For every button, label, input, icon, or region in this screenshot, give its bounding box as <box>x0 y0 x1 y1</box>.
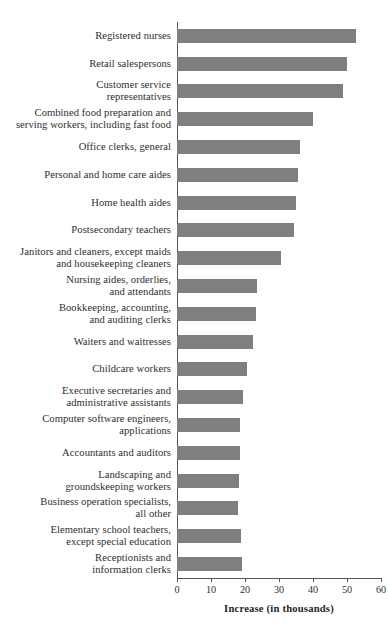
bar <box>177 140 300 154</box>
category-label: Executive secretaries and administrative… <box>0 385 171 409</box>
plot-area: Registered nursesRetail salespersonsCust… <box>0 22 388 578</box>
bar <box>177 223 294 237</box>
bar-row: Retail salespersons <box>0 50 388 78</box>
bar <box>177 335 253 349</box>
bar-row: Combined food preparation and serving wo… <box>0 105 388 133</box>
x-tick <box>177 578 178 582</box>
bar <box>177 29 356 43</box>
x-tick <box>245 578 246 582</box>
bar-row: Bookkeeping, accounting, and auditing cl… <box>0 300 388 328</box>
bar-row: Customer service representatives <box>0 78 388 106</box>
bar <box>177 112 313 126</box>
category-label: Home health aides <box>0 197 171 209</box>
x-tick-label: 40 <box>308 584 318 595</box>
bar <box>177 362 247 376</box>
bar <box>177 279 257 293</box>
x-tick-label: 50 <box>342 584 352 595</box>
category-label: Customer service representatives <box>0 80 171 104</box>
category-label: Landscaping and groundskeeping workers <box>0 469 171 493</box>
bar-row: Childcare workers <box>0 356 388 384</box>
x-axis-title: Increase (in thousands) <box>177 603 381 614</box>
category-label: Bookkeeping, accounting, and auditing cl… <box>0 302 171 326</box>
bar-row: Postsecondary teachers <box>0 217 388 245</box>
bar-row: Registered nurses <box>0 22 388 50</box>
category-label: Elementary school teachers, except speci… <box>0 524 171 548</box>
category-label: Janitors and cleaners, except maids and … <box>0 246 171 270</box>
bar-row: Executive secretaries and administrative… <box>0 383 388 411</box>
bar-row: Receptionists and information clerks <box>0 550 388 578</box>
bar <box>177 474 239 488</box>
x-tick-label: 30 <box>274 584 284 595</box>
x-tick-label: 0 <box>174 584 179 595</box>
bar-row: Home health aides <box>0 189 388 217</box>
bar-row: Janitors and cleaners, except maids and … <box>0 244 388 272</box>
category-label: Childcare workers <box>0 364 171 376</box>
bar <box>177 57 347 71</box>
bar-row: Business operation specialists, all othe… <box>0 495 388 523</box>
bar-row: Personal and home care aides <box>0 161 388 189</box>
bar-row: Computer software engineers, application… <box>0 411 388 439</box>
category-label: Combined food preparation and serving wo… <box>0 107 171 131</box>
category-label: Receptionists and information clerks <box>0 552 171 576</box>
category-label: Personal and home care aides <box>0 169 171 181</box>
category-label: Accountants and auditors <box>0 447 171 459</box>
bar-row: Office clerks, general <box>0 133 388 161</box>
x-tick <box>211 578 212 582</box>
bar-row: Accountants and auditors <box>0 439 388 467</box>
x-tick-label: 20 <box>240 584 250 595</box>
bar <box>177 84 343 98</box>
bar <box>177 307 256 321</box>
x-tick <box>347 578 348 582</box>
category-label: Office clerks, general <box>0 141 171 153</box>
bar <box>177 557 242 571</box>
x-tick <box>381 578 382 582</box>
bar-row: Nursing aides, orderlies, and attendants <box>0 272 388 300</box>
x-tick <box>279 578 280 582</box>
category-label: Computer software engineers, application… <box>0 413 171 437</box>
category-label: Postsecondary teachers <box>0 225 171 237</box>
bar <box>177 390 243 404</box>
bar <box>177 446 240 460</box>
bar <box>177 418 240 432</box>
category-label: Nursing aides, orderlies, and attendants <box>0 274 171 298</box>
bar-row: Landscaping and groundskeeping workers <box>0 467 388 495</box>
x-tick <box>313 578 314 582</box>
x-tick-label: 10 <box>206 584 216 595</box>
bar-rows: Registered nursesRetail salespersonsCust… <box>0 22 388 578</box>
category-label: Registered nurses <box>0 30 171 42</box>
x-tick-label: 60 <box>376 584 386 595</box>
bar-row: Waiters and waitresses <box>0 328 388 356</box>
bar <box>177 168 298 182</box>
bar-chart: Registered nursesRetail salespersonsCust… <box>0 0 388 632</box>
bar-row: Elementary school teachers, except speci… <box>0 522 388 550</box>
category-label: Business operation specialists, all othe… <box>0 497 171 521</box>
category-label: Waiters and waitresses <box>0 336 171 348</box>
bar <box>177 196 296 210</box>
category-label: Retail salespersons <box>0 58 171 70</box>
bar <box>177 501 238 515</box>
bar <box>177 251 281 265</box>
bar <box>177 529 241 543</box>
